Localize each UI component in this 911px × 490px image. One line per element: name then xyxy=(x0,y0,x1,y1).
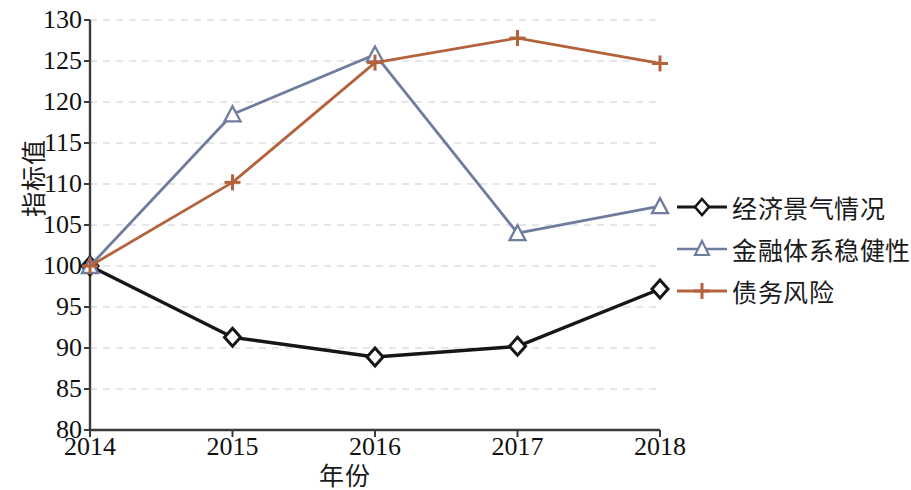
legend-item-economic-prosperity: 经济景气情况 xyxy=(676,186,891,228)
data-point-diamond xyxy=(367,348,383,366)
legend-label: 金融体系稳健性 xyxy=(728,231,911,267)
series-line-1 xyxy=(90,266,660,357)
legend-marker-plus-icon xyxy=(676,278,728,304)
data-point-plus xyxy=(510,30,526,46)
data-point-triangle xyxy=(652,198,668,213)
legend-marker-triangle-icon xyxy=(676,236,728,262)
data-point-diamond xyxy=(510,337,526,355)
series-line-3 xyxy=(90,38,660,266)
legend-marker-diamond-icon xyxy=(676,194,728,220)
series-line-2 xyxy=(90,54,660,266)
data-point-diamond xyxy=(225,328,241,346)
legend-label: 债务风险 xyxy=(728,273,834,309)
data-point-diamond xyxy=(652,280,668,298)
data-point-plus xyxy=(652,55,668,71)
legend: 经济景气情况 金融体系稳健性 债务风险 xyxy=(676,186,891,312)
legend-item-financial-system-soundness: 金融体系稳健性 xyxy=(676,228,891,270)
x-axis-title: 年份 xyxy=(0,456,690,490)
data-point-triangle xyxy=(225,106,241,121)
legend-item-debt-risk: 债务风险 xyxy=(676,270,891,312)
legend-label: 经济景气情况 xyxy=(728,189,885,225)
